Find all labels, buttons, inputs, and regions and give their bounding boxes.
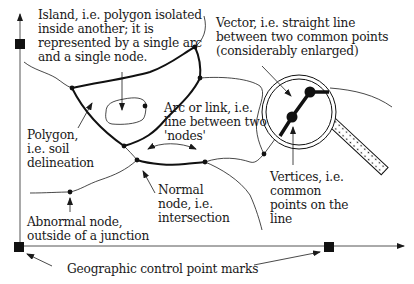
label-polygon: Polygon, i.e. soil delineation [27, 128, 94, 170]
island-node [143, 104, 148, 109]
label-vertices: Vertices, i.e. common points on the line [270, 170, 348, 226]
label-vector: Vector, i.e. straight line between two c… [216, 16, 388, 58]
island-boundary [106, 98, 146, 125]
thin-arc-far-right [330, 88, 392, 107]
control-point-mark-right [324, 242, 334, 252]
node [203, 160, 208, 165]
control-point-mark-origin [14, 242, 24, 252]
arc-bottom [137, 160, 205, 165]
node [198, 76, 203, 81]
label-control-points: Geographic control point marks [67, 262, 258, 276]
abnormal-node [68, 190, 73, 195]
label-normal-node: Normal node, i.e. intersection [158, 183, 230, 225]
normal-node [135, 158, 140, 163]
control-point-pointer-left [27, 254, 52, 266]
vertex [305, 87, 316, 98]
thin-arc-vector-link [205, 154, 264, 162]
node [262, 152, 267, 157]
node [122, 144, 127, 149]
label-island: Island, i.e. polygon isolated inside ano… [38, 8, 202, 64]
thin-arc-left-top [24, 62, 72, 88]
control-point-pointer-right [254, 252, 320, 265]
magnifying-glass [262, 75, 388, 175]
thin-arc-connector [124, 146, 137, 160]
label-arc: Arc or link, i.e. line between two 'node… [164, 101, 267, 143]
control-point-mark-top [15, 39, 25, 49]
vertex [287, 112, 298, 123]
arc-span-arrow [148, 144, 196, 149]
magnifier-handle [329, 118, 388, 174]
normal-node-pointer-arrow [143, 171, 155, 193]
node [70, 86, 75, 91]
magnifier-lens-inner [266, 79, 332, 145]
label-abnormal-node: Abnormal node, outside of a junction [27, 215, 149, 243]
